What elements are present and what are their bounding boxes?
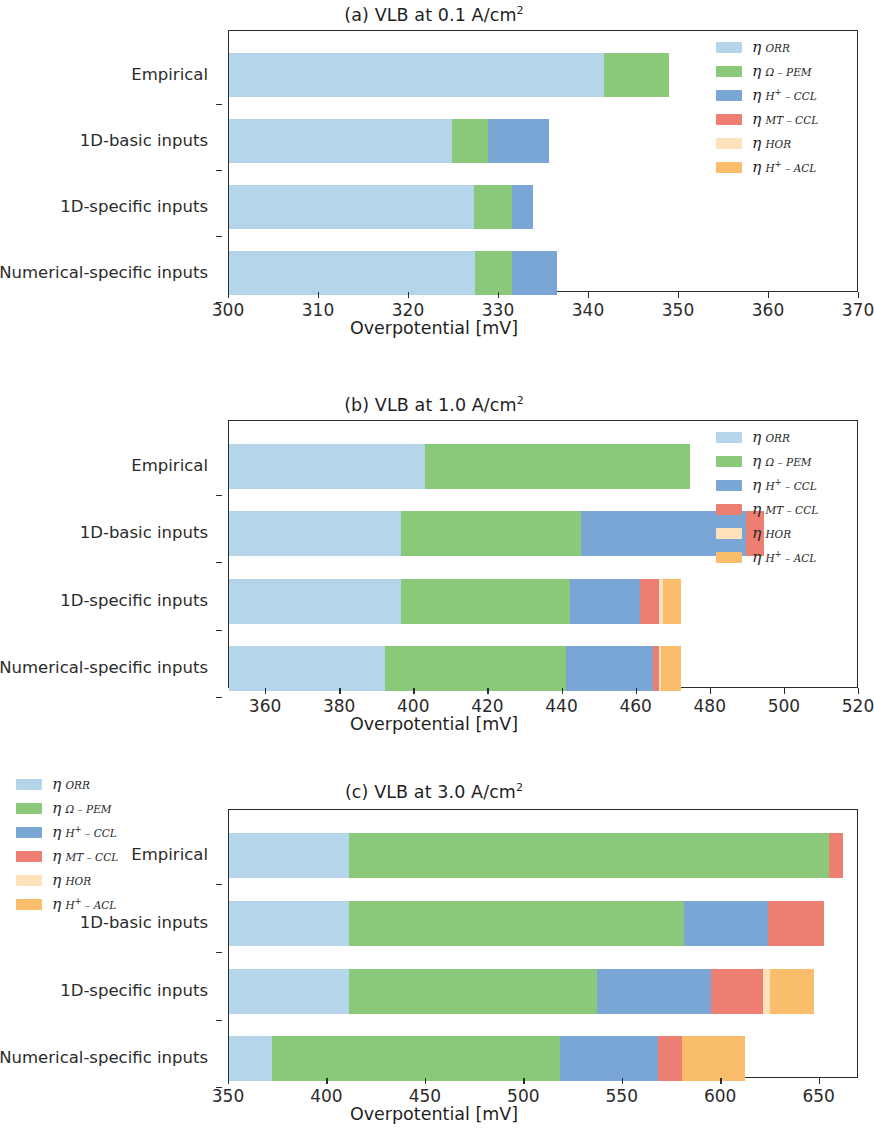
x-tick-label: 360	[752, 300, 784, 320]
bar-segment	[401, 579, 570, 624]
x-tick	[408, 292, 409, 298]
panel-c-bars	[229, 810, 857, 1077]
x-tick	[720, 1078, 721, 1084]
legend-entry: η MT – CCL	[716, 112, 818, 128]
y-tick	[216, 562, 222, 563]
legend-entry: η ORR	[716, 430, 790, 446]
bar-segment	[604, 53, 669, 97]
legend-label: η Ω – PEM	[52, 801, 112, 817]
legend-entry: η H+ – ACL	[716, 550, 816, 566]
x-tick	[523, 1078, 524, 1084]
legend-label: η ORR	[752, 40, 790, 56]
legend-label: η H+ – ACL	[52, 897, 116, 913]
legend-entry: η HOR	[716, 136, 791, 152]
x-tick	[710, 688, 711, 694]
panel-c-plot-area	[228, 809, 858, 1078]
legend-swatch	[716, 42, 742, 53]
legend-entry: η ORR	[716, 40, 790, 56]
legend-entry: η H+ – CCL	[716, 88, 817, 104]
x-tick	[265, 688, 266, 694]
x-tick-label: 440	[545, 696, 577, 716]
bar-segment	[566, 646, 653, 691]
panel-c-x-axis-title: Overpotential [mV]	[0, 1104, 868, 1124]
bar-segment	[560, 1036, 658, 1081]
x-tick-label: 650	[802, 1086, 834, 1106]
legend-label: η H+ – CCL	[752, 478, 817, 494]
y-label-1d-basic: 1D-basic inputs	[80, 131, 208, 150]
legend-swatch	[16, 803, 42, 814]
panel-b-x-axis-title: Overpotential [mV]	[0, 714, 868, 734]
legend-entry: η MT – CCL	[716, 502, 818, 518]
legend-label: η Ω – PEM	[752, 64, 812, 80]
panel-b-y-axis: Empirical 1D-basic inputs 1D-specific in…	[0, 420, 222, 688]
x-tick	[339, 688, 340, 694]
legend-label: η ORR	[752, 430, 790, 446]
x-tick-label: 340	[572, 300, 604, 320]
panel-a-y-axis: Empirical 1D-basic inputs 1D-specific in…	[0, 30, 222, 292]
bar-segment	[229, 1036, 272, 1081]
x-tick	[228, 292, 229, 298]
bar-segment	[711, 969, 762, 1014]
legend-entry: η Ω – PEM	[716, 454, 812, 470]
x-tick	[636, 688, 637, 694]
x-tick-label: 300	[212, 300, 244, 320]
x-tick-label: 460	[619, 696, 651, 716]
bar-segment	[474, 185, 512, 229]
bar-segment	[682, 1036, 745, 1081]
legend-entry: η HOR	[16, 873, 91, 889]
legend-entry: η ORR	[16, 777, 90, 793]
x-tick-label: 350	[212, 1086, 244, 1106]
x-tick	[622, 1078, 623, 1084]
x-tick-label: 550	[606, 1086, 638, 1106]
y-tick	[216, 1020, 222, 1021]
bar-segment	[229, 53, 604, 97]
legend-swatch	[716, 66, 742, 77]
bar-segment	[829, 833, 843, 878]
legend-swatch	[716, 456, 742, 467]
y-tick	[216, 952, 222, 953]
y-label-1d-specific: 1D-specific inputs	[60, 981, 208, 1000]
legend-swatch	[16, 851, 42, 862]
legend-label: η H+ – CCL	[52, 825, 117, 841]
x-tick-label: 500	[507, 1086, 539, 1106]
legend-swatch	[716, 138, 742, 149]
x-tick	[768, 292, 769, 298]
panel-c-legend: η ORRη Ω – PEMη H+ – CCLη MT – CCLη HORη…	[16, 777, 166, 937]
legend-swatch	[716, 114, 742, 125]
legend-swatch	[16, 875, 42, 886]
x-tick	[318, 292, 319, 298]
legend-label: η H+ – ACL	[752, 550, 816, 566]
bar-segment	[768, 901, 823, 946]
panel-b-title: (b) VLB at 1.0 A/cm2	[0, 394, 868, 415]
x-tick	[562, 688, 563, 694]
bar-row	[229, 119, 549, 163]
x-tick-label: 330	[482, 300, 514, 320]
legend-entry: η H+ – ACL	[16, 897, 116, 913]
panel-c: (c) VLB at 3.0 A/cm2 Empirical 1D-basic …	[0, 765, 868, 1129]
bar-row	[229, 53, 669, 97]
bar-segment	[763, 969, 771, 1014]
y-label-numerical-specific: Numerical-specific inputs	[0, 1048, 208, 1067]
legend-swatch	[716, 528, 742, 539]
x-tick	[784, 688, 785, 694]
bar-segment	[663, 579, 682, 624]
bar-segment	[452, 119, 488, 163]
bar-segment	[512, 251, 556, 295]
y-label-empirical: Empirical	[131, 456, 208, 475]
x-tick	[326, 1078, 327, 1084]
bar-segment	[385, 646, 567, 691]
bar-row	[229, 646, 681, 691]
panel-b: (b) VLB at 1.0 A/cm2 Empirical 1D-basic …	[0, 388, 868, 738]
legend-entry: η Ω – PEM	[716, 64, 812, 80]
y-tick	[216, 104, 222, 105]
bar-segment	[349, 901, 684, 946]
bar-segment	[658, 1036, 682, 1081]
legend-entry: η H+ – CCL	[16, 825, 117, 841]
y-tick	[216, 697, 222, 698]
legend-label: η MT – CCL	[52, 849, 118, 865]
panel-a-title: (a) VLB at 0.1 A/cm2	[0, 4, 868, 25]
bar-row	[229, 185, 533, 229]
bar-row	[229, 579, 681, 624]
x-tick	[588, 292, 589, 298]
y-tick	[216, 495, 222, 496]
